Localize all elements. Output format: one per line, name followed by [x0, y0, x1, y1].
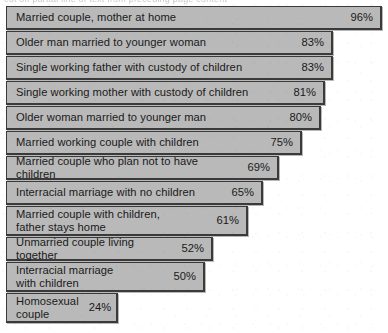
horizontal-bar-chart: Married couple, mother at home96%Older m…: [6, 6, 384, 328]
bar: Interracial marriage with children50%: [6, 262, 205, 292]
bar: Single working father with custody of ch…: [6, 56, 333, 80]
bar-row: Married couple, mother at home96%: [6, 6, 384, 30]
bar: Older woman married to younger man80%: [6, 106, 321, 130]
bar-value: 61%: [206, 214, 239, 227]
bar-row: Married working couple with children75%: [6, 131, 384, 155]
bar-label: Married couple, mother at home: [16, 11, 176, 24]
bar-label: Interracial marriage with no children: [16, 186, 195, 199]
bar: Homosexual couple24%: [6, 293, 118, 323]
bar-value: 83%: [291, 36, 324, 49]
bar: Older man married to younger woman83%: [6, 31, 333, 55]
bar-value: 81%: [283, 86, 316, 99]
bar-label: Single working mother with custody of ch…: [16, 86, 248, 99]
bar: Married working couple with children75%: [6, 131, 302, 155]
bar-row: Single working mother with custody of ch…: [6, 81, 384, 105]
bar-row: Interracial marriage with no children65%: [6, 181, 384, 205]
bar-row: Homosexual couple24%: [6, 293, 384, 323]
bar: Married couple, mother at home96%: [6, 6, 382, 30]
bar-value: 69%: [237, 161, 270, 174]
bar-label: Married couple who plan not to have chil…: [16, 155, 237, 180]
bar-value: 75%: [260, 136, 293, 149]
bar: Married couple with children, father sta…: [6, 206, 248, 236]
bar: Unmarried couple living together52%: [6, 237, 213, 261]
bar-label: Older woman married to younger man: [16, 111, 206, 124]
bar-value: 83%: [291, 61, 324, 74]
bar-label: Interracial marriage with children: [16, 264, 113, 289]
bar-value: 52%: [171, 242, 204, 255]
bar-label: Single working father with custody of ch…: [16, 61, 242, 74]
bar-label: Older man married to younger woman: [16, 36, 206, 49]
bar-label: Married couple with children, father sta…: [16, 208, 160, 233]
bar-value: 80%: [279, 111, 312, 124]
bar-row: Older woman married to younger man80%: [6, 106, 384, 130]
bar-value: 65%: [221, 186, 254, 199]
bar: Interracial marriage with no children65%: [6, 181, 263, 205]
bar-row: Unmarried couple living together52%: [6, 237, 384, 261]
bar: Single working mother with custody of ch…: [6, 81, 325, 105]
bar-value: 24%: [79, 301, 112, 314]
scan-artifact: cut off partial line of text from preced…: [4, 0, 244, 5]
bar-row: Single working father with custody of ch…: [6, 56, 384, 80]
bar-label: Married working couple with children: [16, 136, 199, 149]
bar-value: 50%: [163, 270, 196, 283]
bar-label: Homosexual couple: [16, 295, 79, 320]
bar-label: Unmarried couple living together: [16, 236, 171, 261]
bar-row: Married couple who plan not to have chil…: [6, 156, 384, 180]
bar-value: 96%: [340, 11, 373, 24]
scan-artifact-ghost-text: cut off partial line of text from preced…: [4, 0, 244, 4]
bar-row: Interracial marriage with children50%: [6, 262, 384, 292]
bar-row: Married couple with children, father sta…: [6, 206, 384, 236]
bar-row: Older man married to younger woman83%: [6, 31, 384, 55]
bar: Married couple who plan not to have chil…: [6, 156, 279, 180]
